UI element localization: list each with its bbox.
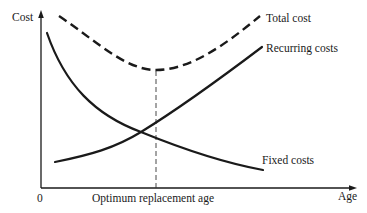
origin-label: 0 xyxy=(37,192,43,204)
cost-vs-age-diagram: Cost Total cost Recurring costs Fixed co… xyxy=(0,0,367,213)
y-axis-arrow-icon xyxy=(38,10,44,18)
y-axis-label: Cost xyxy=(12,11,34,23)
recurring-costs-label: Recurring costs xyxy=(266,42,338,55)
recurring-costs-curve xyxy=(55,47,262,162)
fixed-costs-label: Fixed costs xyxy=(262,154,315,166)
x-axis-label: Age xyxy=(338,190,357,203)
total-cost-curve xyxy=(59,16,260,70)
total-cost-label: Total cost xyxy=(266,12,312,24)
fixed-costs-curve xyxy=(47,33,263,170)
optimum-replacement-age-label: Optimum replacement age xyxy=(92,192,214,205)
